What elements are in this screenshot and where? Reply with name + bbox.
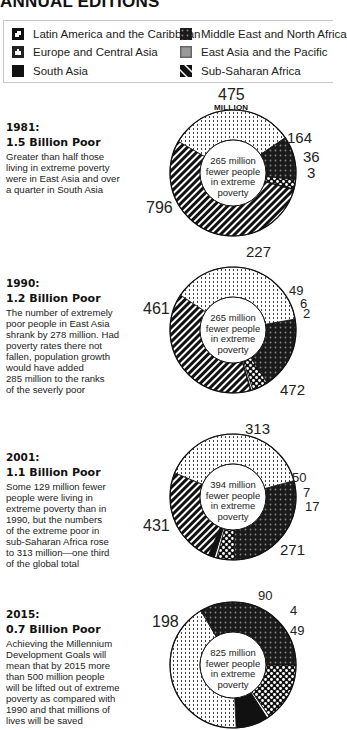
section-text: Greater than half thoseliving in extreme… xyxy=(6,151,156,195)
slice-label: 2 xyxy=(303,306,310,321)
legend-item-middle-east: Middle East and North Africa xyxy=(180,28,347,40)
dark-cross-swatch-icon xyxy=(180,28,192,40)
legend: Latin America and the Caribbean Middle E… xyxy=(3,20,333,83)
dark-dots-swatch-icon xyxy=(12,46,24,58)
section-text: Some 129 million fewerpeople were living… xyxy=(6,481,156,569)
legend-item-east-asia: East Asia and the Pacific xyxy=(180,46,328,58)
section-1981: 1981: 1.5 Billion Poor Greater than half… xyxy=(6,121,156,195)
slice-label: 475 xyxy=(218,86,245,104)
solid-swatch-icon xyxy=(12,65,24,77)
slice-label: 7 xyxy=(303,485,310,500)
slice-label: 49 xyxy=(290,623,304,638)
section-headline: 1.2 Billion Poor xyxy=(6,290,156,307)
chart-center-text-2015: 825 millionfewer peoplein extremepoverty xyxy=(193,648,273,690)
section-1990: 1990: 1.2 Billion Poor The number of ext… xyxy=(6,277,156,395)
legend-item-europe: Europe and Central Asia xyxy=(12,46,158,58)
section-text: The number of extremelypoor people in Ea… xyxy=(6,307,156,395)
slice-label: 36 xyxy=(303,148,320,165)
section-headline: 0.7 Billion Poor xyxy=(6,621,156,638)
legend-item-south-asia: South Asia xyxy=(12,65,88,77)
section-text: Achieving the MillenniumDevelopment Goal… xyxy=(6,638,156,726)
chart-center-text-2001: 394 millionfewer peoplein extremepoverty xyxy=(193,480,273,522)
section-year: 2001: xyxy=(6,451,156,464)
gray-swatch-icon xyxy=(180,46,192,58)
section-headline: 1.5 Billion Poor xyxy=(6,134,156,151)
section-2001: 2001: 1.1 Billion Poor Some 129 million … xyxy=(6,451,156,569)
slice-label: 4 xyxy=(290,603,297,618)
slice-label: 461 xyxy=(143,300,170,318)
section-headline: 1.1 Billion Poor xyxy=(6,464,156,481)
slice-label: 431 xyxy=(143,517,170,535)
chart-center-text-1981: 265 millionfewer peoplein extremepoverty xyxy=(193,156,273,198)
slice-label: 198 xyxy=(152,613,179,631)
slice-label: 17 xyxy=(305,499,319,514)
section-year: 1981: xyxy=(6,121,156,134)
chart-center-text-1990: 265 millionfewer peoplein extremepoverty xyxy=(193,313,273,355)
checker-swatch-icon xyxy=(12,28,24,40)
slice-label: 164 xyxy=(287,129,312,146)
slice-label: 50 xyxy=(292,470,306,485)
section-year: 2015: xyxy=(6,608,156,621)
slice-label: 227 xyxy=(246,243,271,260)
legend-item-latin-america: Latin America and the Caribbean xyxy=(12,28,201,40)
stripes-swatch-icon xyxy=(180,65,192,77)
slice-label: 3 xyxy=(307,164,315,181)
page-header: ANNUAL EDITIONS xyxy=(0,0,159,12)
slice-label: 472 xyxy=(280,381,305,398)
slice-label: 90 xyxy=(258,588,272,603)
legend-item-sub-saharan: Sub-Saharan Africa xyxy=(180,65,301,77)
unit-label: MILLION xyxy=(214,103,248,112)
section-year: 1990: xyxy=(6,277,156,290)
slice-label: 313 xyxy=(245,420,270,437)
slice-label: 796 xyxy=(146,199,173,217)
section-2015: 2015: 0.7 Billion Poor Achieving the Mil… xyxy=(6,608,156,726)
slice-label: 271 xyxy=(280,541,305,558)
